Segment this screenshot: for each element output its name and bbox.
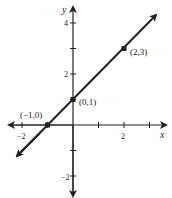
point-2-3 [122,46,127,51]
y-axis-label: y [61,4,67,15]
point-0-1 [71,97,76,102]
tick-label-x-neg2: −2 [17,132,26,141]
line-chart: y x 4 2 −2 −2 2 (−1,0) (0,1) (2,3) [0,0,172,198]
x-axis-label: x [159,129,165,140]
point-neg1-0 [45,123,50,128]
tick-label-x-2: 2 [121,132,125,141]
tick-label-y-4: 4 [64,19,68,28]
point-label-0-1: (0,1) [79,97,96,107]
tick-label-y-2: 2 [64,70,68,79]
tick-label-y-neg2: −2 [61,173,70,182]
point-label-neg1-0: (−1,0) [20,110,42,120]
point-label-2-3: (2,3) [130,47,147,57]
